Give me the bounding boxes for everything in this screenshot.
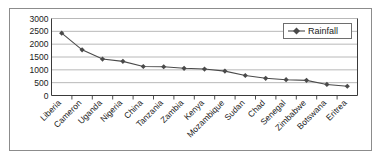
chart-figure: 050010001500200025003000 LiberiaCameronU… xyxy=(0,0,384,166)
x-axis-tick-marks xyxy=(72,96,337,100)
y-axis-tick-label: 1500 xyxy=(30,52,49,62)
x-axis-category-labels: LiberiaCameronUgandaNigeriaChinaTanzania… xyxy=(38,98,349,140)
x-axis-category-label: Eritrea xyxy=(324,98,349,123)
y-axis-tick-label: 0 xyxy=(44,91,49,101)
x-axis-category-label: Sudan xyxy=(222,98,247,123)
x-axis-category-label: Zambia xyxy=(158,98,185,125)
x-axis-category-label: Nigeria xyxy=(98,98,124,124)
y-axis-tick-label: 1000 xyxy=(30,65,49,75)
chart-legend[interactable]: Rainfall xyxy=(284,24,352,39)
y-axis-tick-labels: 050010001500200025003000 xyxy=(30,14,49,101)
y-axis-tick-label: 3000 xyxy=(30,14,49,24)
y-axis-tick-label: 2000 xyxy=(30,39,49,49)
rainfall-line-chart: 050010001500200025003000 LiberiaCameronU… xyxy=(0,0,384,166)
legend-entry-label: Rainfall xyxy=(308,26,338,36)
y-axis-tick-label: 2500 xyxy=(30,26,49,36)
y-axis-tick-label: 500 xyxy=(34,78,48,88)
